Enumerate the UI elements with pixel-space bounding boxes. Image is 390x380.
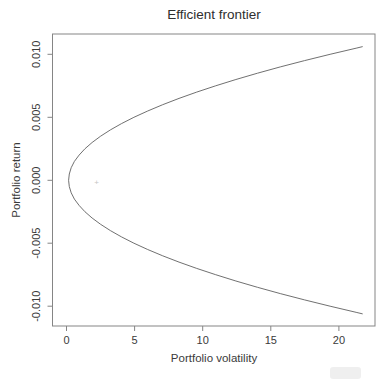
x-tick-label: 0: [63, 334, 69, 346]
x-tick-label: 15: [265, 334, 277, 346]
y-tick-label: 0.010: [31, 41, 43, 69]
x-axis-ticks: 05101520: [63, 326, 345, 346]
y-tick-label: -0.005: [31, 228, 43, 259]
efficient-frontier-chart: Efficient frontier 05101520 0.0100.0050.…: [0, 0, 390, 380]
plot-canvas: Efficient frontier 05101520 0.0100.0050.…: [0, 0, 390, 380]
screenshot-smudge-artifact: [330, 367, 361, 379]
plot-area-border: [53, 34, 376, 326]
minimum-variance-marker: +: [94, 178, 99, 187]
frontier-curve: [69, 47, 363, 314]
y-tick-label: 0.005: [31, 104, 43, 132]
x-tick-label: 5: [132, 334, 138, 346]
chart-title: Efficient frontier: [167, 7, 261, 22]
y-axis-ticks: 0.0100.0050.000-0.005-0.010: [31, 41, 53, 322]
x-tick-label: 10: [197, 334, 209, 346]
y-tick-label: -0.010: [31, 291, 43, 322]
y-axis-label: Portfolio return: [10, 142, 22, 217]
y-tick-label: 0.000: [31, 167, 43, 195]
x-tick-label: 20: [333, 334, 345, 346]
x-axis-label: Portfolio volatility: [171, 352, 258, 364]
